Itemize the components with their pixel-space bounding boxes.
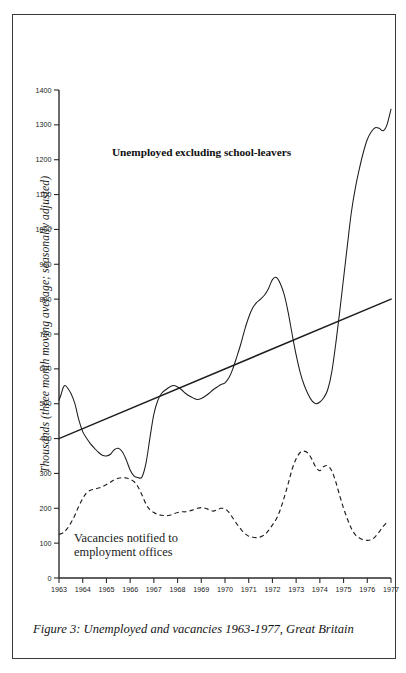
series-line-vacancies: [59, 451, 387, 540]
y-tick-label: 0: [48, 574, 52, 583]
x-tick-label: 1965: [98, 585, 114, 594]
figure-caption: Figure 3: Unemployed and vacancies 1963-…: [33, 622, 354, 637]
annotation-vacancies-series: Vacancies notified to employment offices: [74, 532, 178, 559]
x-tick-label: 1977: [383, 585, 399, 594]
annotation-vacancies-line1: Vacancies notified to: [74, 532, 178, 546]
series-line-unemployed: [59, 109, 391, 478]
chart-canvas: 0100200300400500600700800900100011001200…: [0, 0, 406, 673]
x-axis: 1963196419651966196719681969197019711972…: [51, 578, 399, 594]
chart-svg: 0100200300400500600700800900100011001200…: [0, 0, 406, 673]
x-tick-label: 1968: [170, 585, 186, 594]
x-tick-label: 1976: [359, 585, 375, 594]
x-tick-label: 1973: [288, 585, 304, 594]
x-tick-label: 1971: [241, 585, 257, 594]
x-tick-label: 1963: [51, 585, 67, 594]
x-tick-label: 1966: [122, 585, 138, 594]
x-tick-label: 1975: [336, 585, 352, 594]
x-tick-label: 1974: [312, 585, 328, 594]
x-tick-label: 1970: [217, 585, 233, 594]
y-axis-title: Thousands (three month moving average; s…: [39, 75, 52, 575]
annotation-unemployed-series: Unemployed excluding school-leavers: [112, 146, 291, 158]
x-tick-label: 1964: [75, 585, 91, 594]
figure-root: 0100200300400500600700800900100011001200…: [0, 0, 406, 673]
series-line-trend: [59, 299, 391, 438]
x-tick-label: 1969: [193, 585, 209, 594]
data-series-group: [59, 109, 391, 540]
x-tick-label: 1967: [146, 585, 162, 594]
x-tick-label: 1972: [264, 585, 280, 594]
annotation-vacancies-line2: employment offices: [74, 546, 178, 560]
